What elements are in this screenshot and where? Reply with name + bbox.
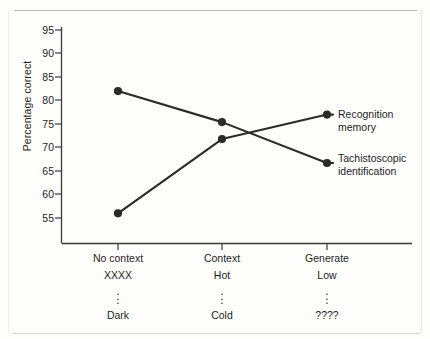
data-point-recognition-memory-generate <box>323 111 331 119</box>
series-label-recognition-line2: memory <box>338 121 393 134</box>
x-category-generate-line1: Generate <box>257 250 397 267</box>
series-label-recognition-memory: Recognition memory <box>338 108 393 134</box>
series-label-recognition-line1: Recognition <box>338 108 393 121</box>
series-line-recognition-memory <box>118 115 327 214</box>
x-category-generate-line4: ???? <box>257 307 397 324</box>
x-category-group-generate: Generate Low ... ???? <box>257 250 397 324</box>
data-point-tachistoscopic-identification-no-context <box>114 87 122 95</box>
series-label-tachistoscopic-line1: Tachistoscopic <box>338 152 406 165</box>
y-tick-marks <box>55 30 62 218</box>
data-point-recognition-memory-no-context <box>114 209 122 217</box>
series-line-tachistoscopic-identification <box>118 91 327 163</box>
series-label-tachistoscopic-line2: identification <box>338 165 406 178</box>
data-point-tachistoscopic-identification-context <box>218 118 226 126</box>
x-category-generate-ellipsis: ... <box>257 284 397 307</box>
data-point-recognition-memory-context <box>218 135 226 143</box>
x-category-generate-line2: Low <box>257 267 397 284</box>
data-point-tachistoscopic-identification-generate <box>323 159 331 167</box>
series-layer <box>114 87 333 217</box>
series-label-tachistoscopic-identification: Tachistoscopic identification <box>338 152 406 178</box>
line-chart-figure: Percentage correct 95 90 85 80 75 70 65 … <box>0 0 430 339</box>
